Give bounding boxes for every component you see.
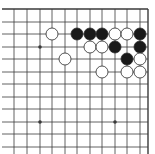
white-stone bbox=[96, 41, 108, 53]
star-point bbox=[113, 120, 117, 124]
stones-layer bbox=[46, 28, 146, 78]
star-point bbox=[38, 45, 42, 49]
white-stone bbox=[96, 66, 108, 78]
white-stone bbox=[134, 53, 146, 65]
black-stone bbox=[84, 28, 96, 40]
white-stone bbox=[134, 66, 146, 78]
black-stone bbox=[121, 53, 133, 65]
black-stone bbox=[96, 28, 108, 40]
white-stone bbox=[121, 28, 133, 40]
white-stone bbox=[109, 28, 121, 40]
white-stone bbox=[59, 53, 71, 65]
star-points bbox=[38, 45, 117, 124]
white-stone bbox=[121, 66, 133, 78]
black-stone bbox=[71, 28, 83, 40]
star-point bbox=[38, 120, 42, 124]
black-stone bbox=[134, 28, 146, 40]
black-stone bbox=[134, 41, 146, 53]
black-stone bbox=[109, 41, 121, 53]
go-board bbox=[0, 0, 155, 154]
white-stone bbox=[46, 28, 58, 40]
white-stone bbox=[84, 41, 96, 53]
